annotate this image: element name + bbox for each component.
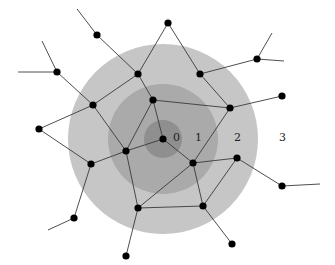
node	[226, 104, 233, 111]
ring-label-0: 0	[173, 131, 180, 144]
node	[149, 96, 156, 103]
ring-label-2: 2	[234, 131, 241, 144]
center-node	[159, 135, 166, 142]
node	[35, 125, 42, 132]
ring-label-1: 1	[195, 131, 202, 144]
node	[134, 204, 141, 211]
node	[87, 160, 94, 167]
edge	[77, 9, 97, 35]
edge	[282, 184, 320, 186]
node	[122, 147, 129, 154]
node	[122, 252, 129, 259]
node	[70, 214, 77, 221]
node	[196, 70, 203, 77]
edge	[257, 59, 284, 61]
node	[233, 154, 240, 161]
node	[189, 159, 196, 166]
node	[253, 55, 260, 62]
node	[53, 68, 60, 75]
edge	[48, 218, 74, 230]
ring-label-3: 3	[279, 131, 286, 144]
edge	[257, 33, 272, 59]
network-diagram: 0 1 2 3	[0, 0, 335, 265]
node	[278, 92, 285, 99]
node	[89, 101, 96, 108]
node	[228, 240, 235, 247]
node	[199, 202, 206, 209]
node	[93, 31, 100, 38]
node	[164, 19, 171, 26]
edge	[42, 41, 57, 72]
node	[134, 70, 141, 77]
node	[278, 182, 285, 189]
